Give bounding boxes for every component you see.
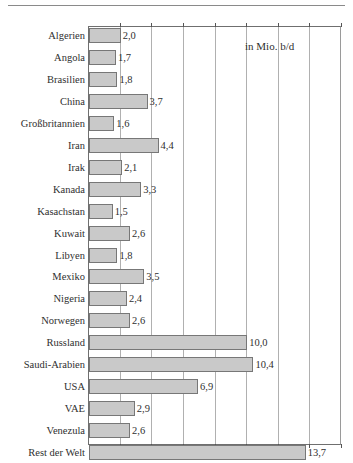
value-label: 1,7 [118, 50, 131, 65]
chart-page: Algerien2,0Angola1,7Brasilien1,8China3,7… [0, 0, 353, 463]
value-label: 2,6 [132, 423, 145, 438]
category-label: Norwegen [0, 313, 85, 328]
value-label: 2,1 [124, 160, 137, 175]
category-label: Nigeria [0, 291, 85, 306]
category-label: Großbritannien [0, 116, 85, 131]
category-label: Saudi-Arabien [0, 357, 85, 372]
bar-row: Großbritannien1,6 [0, 116, 353, 131]
bar [89, 116, 114, 131]
category-label: Angola [0, 50, 85, 65]
bar [89, 182, 141, 197]
bar-row: VAE2,9 [0, 401, 353, 416]
value-label: 1,8 [119, 248, 132, 263]
bar [89, 94, 148, 109]
category-label: Mexiko [0, 269, 85, 284]
value-label: 1,8 [119, 72, 132, 87]
bar-row: Kanada3,3 [0, 182, 353, 197]
category-label: Kasachstan [0, 204, 85, 219]
bar-row: Algerien2,0 [0, 28, 353, 43]
category-label: Venezula [0, 423, 85, 438]
bar [89, 28, 121, 43]
horizontal-bar-chart: Algerien2,0Angola1,7Brasilien1,8China3,7… [0, 0, 353, 463]
bar [89, 401, 135, 416]
category-label: Rest der Welt [0, 445, 85, 460]
bar-row: Brasilien1,8 [0, 72, 353, 87]
bar [89, 138, 159, 153]
value-label: 2,4 [129, 291, 142, 306]
value-label: 3,5 [146, 269, 159, 284]
category-label: Irak [0, 160, 85, 175]
bar [89, 160, 122, 175]
bar-row: Russland10,0 [0, 335, 353, 350]
category-label: VAE [0, 401, 85, 416]
bar [89, 248, 117, 263]
bar [89, 204, 113, 219]
bar [89, 379, 198, 394]
bar-row: Irak2,1 [0, 160, 353, 175]
bar-row: China3,7 [0, 94, 353, 109]
bar [89, 313, 130, 328]
bar [89, 423, 130, 438]
bar [89, 269, 144, 284]
category-label: Brasilien [0, 72, 85, 87]
value-label: 2,6 [132, 313, 145, 328]
value-label: 6,9 [200, 379, 213, 394]
bar-rows: Algerien2,0Angola1,7Brasilien1,8China3,7… [0, 0, 353, 463]
unit-annotation: in Mio. b/d [245, 39, 294, 53]
category-label: Russland [0, 335, 85, 350]
bar [89, 50, 116, 65]
category-label: China [0, 94, 85, 109]
value-label: 3,7 [150, 94, 163, 109]
category-label: Libyen [0, 248, 85, 263]
bar-row: Venezula2,6 [0, 423, 353, 438]
value-label: 2,9 [137, 401, 150, 416]
category-label: Algerien [0, 28, 85, 43]
category-label: Kuwait [0, 226, 85, 241]
value-label: 3,3 [143, 182, 156, 197]
value-label: 1,6 [116, 116, 129, 131]
bar-row: Angola1,7 [0, 50, 353, 65]
bar [89, 445, 306, 460]
bar [89, 357, 253, 372]
value-label: 10,4 [255, 357, 273, 372]
bar-row: Kasachstan1,5 [0, 204, 353, 219]
category-label: USA [0, 379, 85, 394]
value-label: 10,0 [249, 335, 267, 350]
bar-row: Mexiko3,5 [0, 269, 353, 284]
value-label: 1,5 [115, 204, 128, 219]
bar-row: Kuwait2,6 [0, 226, 353, 241]
value-label: 4,4 [161, 138, 174, 153]
bar-row: Iran4,4 [0, 138, 353, 153]
bar [89, 226, 130, 241]
bar-row: Saudi-Arabien10,4 [0, 357, 353, 372]
bar-row: Nigeria2,4 [0, 291, 353, 306]
bar-row: USA6,9 [0, 379, 353, 394]
bar [89, 335, 247, 350]
category-label: Kanada [0, 182, 85, 197]
bar [89, 72, 117, 87]
category-label: Iran [0, 138, 85, 153]
bar [89, 291, 127, 306]
value-label: 2,6 [132, 226, 145, 241]
bar-row: Norwegen2,6 [0, 313, 353, 328]
bar-row: Libyen1,8 [0, 248, 353, 263]
value-label: 2,0 [123, 28, 136, 43]
value-label: 13,7 [308, 445, 326, 460]
bar-row: Rest der Welt13,7 [0, 445, 353, 460]
